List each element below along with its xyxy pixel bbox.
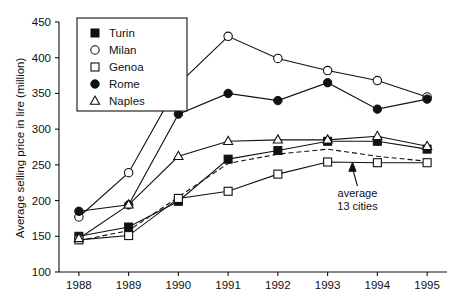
data-point-genoa <box>274 170 282 178</box>
y-tick-label: 350 <box>32 87 51 99</box>
data-point-rome <box>75 207 83 215</box>
x-tick-label: 1992 <box>265 279 291 291</box>
data-point-milan <box>124 169 132 177</box>
data-point-turin <box>274 147 282 155</box>
data-point-genoa <box>423 159 431 167</box>
x-tick-label: 1989 <box>116 279 142 291</box>
data-point-rome <box>373 105 381 113</box>
y-tick-label: 300 <box>32 123 51 135</box>
x-tick-label: 1991 <box>215 279 241 291</box>
data-point-milan <box>373 76 381 84</box>
data-point-rome <box>274 96 282 104</box>
data-point-turin <box>125 223 133 231</box>
y-tick-label: 100 <box>32 266 51 278</box>
chart-annotations: average13 cities <box>337 162 378 212</box>
y-tick-label: 200 <box>32 195 51 207</box>
y-tick-label: 400 <box>32 52 51 64</box>
data-point-naples <box>373 131 382 139</box>
data-point-genoa <box>373 159 381 167</box>
data-point-genoa <box>125 232 133 240</box>
legend-marker-turin <box>91 29 99 37</box>
y-axis-ticks: 100150200250300350400450 <box>32 16 59 278</box>
legend-marker-milan <box>91 46 99 54</box>
y-tick-label: 450 <box>32 16 51 28</box>
y-tick-label: 150 <box>32 230 51 242</box>
data-point-milan <box>224 32 232 40</box>
data-point-milan <box>323 66 331 74</box>
data-point-turin <box>224 155 232 163</box>
legend-label-milan: Milan <box>109 44 136 56</box>
data-point-milan <box>274 54 282 62</box>
x-tick-label: 1993 <box>315 279 341 291</box>
data-point-rome <box>423 95 431 103</box>
data-point-naples <box>224 136 233 144</box>
data-point-genoa <box>174 194 182 202</box>
y-axis-title: Average selling price in lire (million) <box>14 58 26 239</box>
x-tick-label: 1995 <box>414 279 440 291</box>
legend-label-naples: Naples <box>109 95 145 107</box>
x-tick-label: 1994 <box>365 279 391 291</box>
line-chart: Average selling price in lire (million) … <box>0 0 453 305</box>
legend-label-genoa: Genoa <box>109 61 144 73</box>
annotation-label-line1: average <box>338 187 378 199</box>
data-point-rome <box>323 79 331 87</box>
legend-marker-rome <box>91 80 99 88</box>
legend-marker-genoa <box>91 63 99 71</box>
data-point-naples <box>273 135 282 143</box>
x-tick-label: 1990 <box>166 279 192 291</box>
chart-legend: TurinMilanGenoaRomeNaples <box>77 18 187 111</box>
y-tick-label: 250 <box>32 159 51 171</box>
legend-label-rome: Rome <box>109 78 140 90</box>
data-point-rome <box>224 89 232 97</box>
data-point-genoa <box>224 187 232 195</box>
annotation-arrow-head <box>349 162 356 171</box>
chart-container: Average selling price in lire (million) … <box>0 0 453 305</box>
x-axis-ticks: 19881989199019911992199319941995 <box>66 272 440 291</box>
x-tick-label: 1988 <box>66 279 92 291</box>
annotation-label-line2: 13 cities <box>337 200 378 212</box>
data-point-genoa <box>324 158 332 166</box>
legend-label-turin: Turin <box>109 27 135 39</box>
